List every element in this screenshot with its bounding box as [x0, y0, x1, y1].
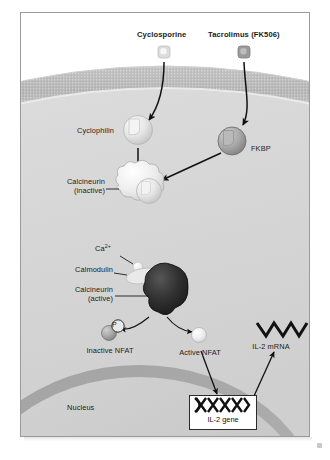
calcineurin-active-line2: (active)	[88, 294, 113, 303]
active-nfat-label: Active NFAT	[167, 348, 233, 357]
cyclosporine-molecule	[158, 46, 170, 58]
cyclophilin-protein	[124, 116, 153, 145]
calcium-ion-label: Ca2+	[95, 243, 111, 254]
cyclophilin-label: Cyclophilin	[77, 126, 114, 135]
calmodulin-label: Calmodulin	[27, 265, 113, 274]
pathway-illustration	[21, 13, 309, 436]
active-nfat-molecule	[192, 328, 207, 343]
frame-drop-shadow	[24, 437, 312, 441]
diagram-canvas: IL-2 gene Cyclosporine Tacrolimus (FK506…	[0, 0, 330, 460]
calcineurin-active-line1: Calcineurin	[75, 285, 113, 294]
fkbp-protein	[218, 127, 246, 155]
tacrolimus-molecule	[238, 46, 250, 58]
calcineurin-inactive-line1: Calcineurin	[67, 177, 105, 186]
il2-mrna-label: IL-2 mRNA	[240, 342, 302, 351]
phosphate-label: P	[112, 321, 117, 330]
inactive-nfat-label: Inactive NFAT	[75, 346, 145, 355]
calcineurin-active-label: Calcineurin (active)	[27, 285, 113, 303]
calcium-charge: 2+	[105, 243, 111, 249]
fkbp-label: FKBP	[251, 144, 271, 153]
resize-handle-dot	[317, 443, 322, 448]
calcineurin-inactive-line2: (inactive)	[74, 186, 105, 195]
cyclosporine-label: Cyclosporine	[137, 30, 186, 39]
tacrolimus-label: Tacrolimus (FK506)	[208, 30, 280, 39]
calcineurin-inactive-label: Calcineurin (inactive)	[25, 177, 105, 195]
il2-gene-box: IL-2 gene	[189, 395, 257, 430]
il2-gene-label: IL-2 gene	[190, 415, 256, 424]
diagram-frame: IL-2 gene Cyclosporine Tacrolimus (FK506…	[20, 12, 310, 437]
nucleus-label: Nucleus	[67, 403, 94, 412]
dna-helix-icon	[190, 396, 254, 414]
